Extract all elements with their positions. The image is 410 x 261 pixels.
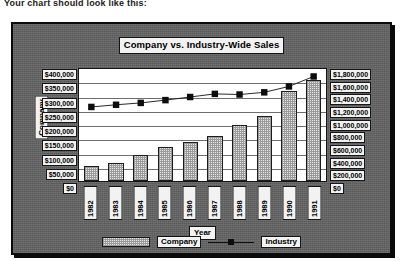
legend-line-marker-icon xyxy=(228,239,234,245)
x-axis-tick-label: 1991 xyxy=(308,186,322,220)
industry-data-point-marker xyxy=(236,91,242,97)
right-axis-tick-label: $0 xyxy=(330,183,344,194)
x-axis-tick: 1985 xyxy=(153,186,178,220)
x-axis-tick: 1986 xyxy=(178,186,203,220)
chart-title: Company vs. Industry-Wide Sales xyxy=(13,34,390,54)
x-axis-tick: 1982 xyxy=(78,186,103,220)
screenshot-root: Your chart should look like this: Compan… xyxy=(0,0,410,261)
industry-data-point-marker xyxy=(88,104,94,110)
legend-line-industry xyxy=(208,238,254,247)
industry-data-point-marker xyxy=(261,89,267,95)
right-axis-tick: $0 xyxy=(330,177,392,195)
legend-label-company: Company xyxy=(157,236,201,248)
x-axis-tick-label: 1982 xyxy=(84,186,98,220)
chart-object[interactable]: Company vs. Industry-Wide Sales Company … xyxy=(11,22,392,255)
x-axis-tick: 1987 xyxy=(203,186,228,220)
caption-text: Your chart should look like this: xyxy=(4,0,214,10)
x-axis-tick: 1989 xyxy=(252,186,277,220)
industry-data-point-marker xyxy=(286,83,292,89)
industry-data-point-marker xyxy=(162,97,168,103)
left-axis-tick: $0 xyxy=(19,177,77,195)
x-axis-tick-label: 1984 xyxy=(134,186,148,220)
industry-data-point-marker xyxy=(187,94,193,100)
industry-data-point-marker xyxy=(138,100,144,106)
x-axis-tick: 1983 xyxy=(103,186,128,220)
legend-swatch-company xyxy=(102,237,150,247)
left-axis-tick-label: $0 xyxy=(63,183,77,194)
x-axis-tick-label: 1985 xyxy=(158,186,172,220)
x-axis-tick: 1988 xyxy=(227,186,252,220)
chart-title-text: Company vs. Industry-Wide Sales xyxy=(119,37,285,54)
x-axis-tick-label: 1986 xyxy=(183,186,197,220)
plot-area xyxy=(78,68,327,182)
industry-data-point-marker xyxy=(113,102,119,108)
x-axis-tick: 1991 xyxy=(302,186,327,220)
legend-label-industry: Industry xyxy=(261,236,301,248)
chart-legend: Company Industry xyxy=(13,236,390,248)
line-series-industry xyxy=(79,69,326,181)
x-axis-tick: 1990 xyxy=(277,186,302,220)
x-axis-tick-labels: 1982198319841985198619871988198919901991 xyxy=(78,186,327,220)
x-axis-tick-label: 1990 xyxy=(283,186,297,220)
industry-data-point-marker xyxy=(310,73,316,79)
x-axis-tick-label: 1988 xyxy=(233,186,247,220)
industry-line-path xyxy=(91,76,313,106)
x-axis-tick-label: 1989 xyxy=(258,186,272,220)
industry-data-point-marker xyxy=(212,91,218,97)
x-axis-tick-label: 1987 xyxy=(208,186,222,220)
x-axis-tick: 1984 xyxy=(128,186,153,220)
x-axis-tick-label: 1983 xyxy=(109,186,123,220)
